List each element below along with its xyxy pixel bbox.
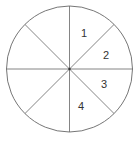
sector-label-1: 1 <box>81 27 87 39</box>
center-point <box>68 68 70 70</box>
sector-label-4: 4 <box>78 100 84 112</box>
sector-label-2: 2 <box>103 49 109 61</box>
sector-labels: 1 2 3 4 <box>78 27 109 112</box>
sector-circle-diagram: 1 2 3 4 <box>0 0 137 144</box>
sector-label-3: 3 <box>101 78 107 90</box>
